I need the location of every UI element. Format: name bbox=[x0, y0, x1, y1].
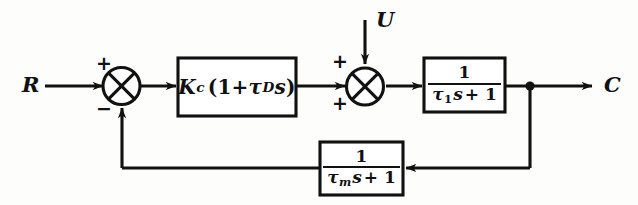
output-label: C bbox=[604, 74, 621, 95]
measurement-tau-symbol: τ bbox=[327, 167, 338, 187]
controller-close-paren: ) bbox=[286, 75, 296, 99]
load-junction-lower-plus-sign: + bbox=[332, 94, 348, 113]
process-plus-one: + 1 bbox=[463, 84, 497, 104]
process-numerator: 1 bbox=[455, 64, 475, 82]
error-junction-minus-sign: − bbox=[96, 99, 112, 118]
process-laplace-var: s bbox=[452, 84, 463, 104]
controller-gain-symbol: K bbox=[178, 75, 196, 99]
controller-laplace-var: s bbox=[275, 75, 286, 99]
output-takeoff-dot bbox=[525, 81, 534, 90]
measurement-laplace-var: s bbox=[351, 167, 362, 187]
measurement-numerator: 1 bbox=[352, 148, 372, 166]
process-tau-subscript: 1 bbox=[444, 92, 452, 106]
measurement-plus-one: + 1 bbox=[362, 167, 396, 187]
load-summing-junction bbox=[347, 68, 384, 105]
process-tau-symbol: τ bbox=[432, 84, 443, 104]
error-junction-plus-sign: + bbox=[96, 54, 112, 73]
controller-gain-subscript: c bbox=[196, 79, 205, 95]
setpoint-label: R bbox=[22, 74, 39, 95]
disturbance-label: U bbox=[376, 9, 394, 30]
controller-tau-subscript: D bbox=[262, 79, 274, 95]
controller-expression: Kc(1+τDs) bbox=[178, 58, 296, 116]
controller-open-paren: (1+ bbox=[205, 75, 249, 99]
measurement-tau-subscript: m bbox=[339, 175, 352, 189]
measurement-expression: 1 τms+ 1 bbox=[320, 142, 403, 195]
block-diagram-canvas: R U C + − + + Kc(1+τDs) 1 τ1s+ 1 1 τms+ … bbox=[0, 0, 638, 205]
load-junction-upper-plus-sign: + bbox=[332, 52, 348, 71]
controller-tau-symbol: τ bbox=[249, 75, 263, 99]
process-expression: 1 τ1s+ 1 bbox=[424, 58, 505, 112]
